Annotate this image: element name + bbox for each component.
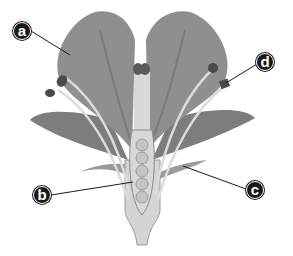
style — [134, 72, 150, 132]
label-b: b — [33, 186, 51, 204]
label-a: a — [13, 22, 31, 40]
stigma — [140, 63, 150, 75]
anther — [208, 63, 218, 73]
label-c: c — [246, 181, 264, 199]
anther — [45, 89, 55, 97]
flower-diagram — [0, 0, 293, 256]
ovule — [136, 165, 148, 177]
label-d: d — [256, 53, 274, 71]
ovule — [136, 152, 148, 164]
leader-line-b — [51, 182, 133, 195]
ovule — [136, 178, 148, 190]
leader-line-c — [183, 166, 246, 189]
ovule — [136, 191, 148, 203]
ovule — [136, 139, 148, 151]
leader-line-d — [226, 64, 257, 83]
